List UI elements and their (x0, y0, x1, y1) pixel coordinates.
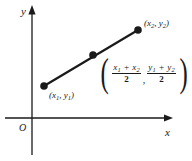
x-denominator: 2 (124, 74, 129, 84)
sub-1: 1 (68, 94, 71, 101)
y-axis-label: y (21, 6, 26, 17)
y-midpoint-fraction: y1 + y2 2 (146, 63, 177, 84)
point-label-x1-y1: (x1, y1) (49, 91, 74, 100)
midpoint-formula-diagram: y x O (x1, y1) (x2, y2) ( x1 + x2 2 , y1… (0, 0, 192, 161)
sub-2: 2 (171, 66, 174, 73)
sub-2: 2 (163, 22, 166, 29)
midpoint-formula: ( x1 + x2 2 , y1 + y2 2 ) (98, 57, 190, 90)
y-axis-arrowhead (28, 5, 35, 15)
sub-2: 2 (136, 66, 139, 73)
formula-close-paren: ) (179, 57, 187, 90)
point-midpoint (89, 51, 97, 59)
sub-1: 1 (118, 66, 121, 73)
point-label-x2-y2: (x2, y2) (144, 19, 169, 28)
sub-1: 1 (153, 66, 156, 73)
origin-label: O (19, 123, 26, 133)
y-numerator: y1 + y2 (147, 63, 176, 73)
x-axis-arrowhead (164, 115, 173, 122)
x-axis-label: x (165, 127, 170, 138)
point-x2-y2 (134, 26, 142, 34)
paren-close: ) (71, 90, 74, 100)
sub-1: 1 (56, 94, 59, 101)
plus-sign: + (156, 62, 167, 72)
var-x1: x (113, 62, 117, 72)
y-denominator: 2 (159, 74, 164, 84)
point-x1-y1 (40, 82, 48, 90)
var-y1: y (148, 62, 152, 72)
x-numerator: x1 + x2 (112, 63, 141, 73)
formula-open-paren: ( (101, 57, 109, 90)
sub-2: 2 (151, 22, 154, 29)
paren-close: ) (166, 18, 169, 28)
x-midpoint-fraction: x1 + x2 2 (111, 63, 142, 84)
plus-sign: + (121, 62, 132, 72)
